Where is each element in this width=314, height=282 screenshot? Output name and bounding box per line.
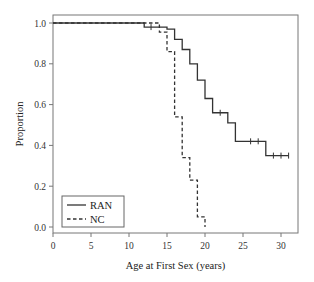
y-tick-label: 0.4	[34, 141, 46, 151]
x-tick-label: 5	[89, 241, 94, 251]
legend-label-ran: RAN	[90, 200, 113, 211]
x-tick-label: 0	[51, 241, 56, 251]
x-axis: 051015202530	[51, 233, 286, 251]
legend: RAN NC	[62, 196, 124, 227]
y-tick-label: 0.0	[34, 223, 46, 233]
survival-chart: 0.00.20.40.60.81.0 051015202530 Age at F…	[0, 0, 314, 282]
y-tick-label: 0.8	[34, 59, 46, 69]
y-tick-label: 0.2	[34, 182, 46, 192]
series-ran-line	[53, 23, 289, 156]
x-tick-label: 30	[276, 241, 286, 251]
x-tick-label: 20	[200, 241, 210, 251]
y-tick-label: 1.0	[34, 19, 46, 29]
y-axis-label: Proportion	[14, 101, 25, 147]
y-axis: 0.00.20.40.60.81.0	[34, 19, 53, 233]
legend-label-nc: NC	[90, 214, 105, 225]
x-tick-label: 25	[238, 241, 248, 251]
y-tick-label: 0.6	[34, 100, 46, 110]
x-tick-label: 10	[124, 241, 134, 251]
x-axis-label: Age at First Sex (years)	[126, 260, 226, 272]
x-tick-label: 15	[162, 241, 172, 251]
